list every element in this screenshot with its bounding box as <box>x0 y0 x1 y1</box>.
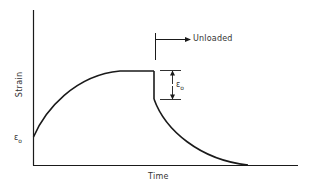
epsilon-axis-label: εo <box>14 133 22 144</box>
y-axis-label: Strain <box>15 72 24 98</box>
unloaded-label: Unloaded <box>193 34 233 43</box>
epsilon-dimension-label: εo <box>176 80 184 91</box>
strain-time-chart <box>0 0 312 189</box>
epsilon-subscript: o <box>18 137 22 144</box>
x-axis-label: Time <box>148 172 169 181</box>
recovery-curve <box>154 99 248 165</box>
epsilon-subscript: o <box>180 84 184 91</box>
loading-creep-curve <box>34 71 155 137</box>
